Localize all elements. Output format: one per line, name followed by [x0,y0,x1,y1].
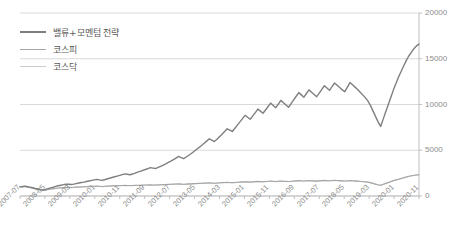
y-tick-label-0: 0 [425,191,429,200]
chart-legend: 밸류+모멘텀 전략코스피코스닥 [20,26,119,72]
y-tick-label-5000: 5000 [425,145,443,154]
legend-swatch-icon-1 [20,49,46,50]
legend-item-1[interactable]: 코스피 [20,43,119,55]
y-tick-label-15000: 15000 [425,54,447,63]
line-chart: 05000100001500020000 2007-072008-052009-… [0,0,476,250]
legend-swatch-icon-2 [20,66,46,67]
y-tick-label-10000: 10000 [425,100,447,109]
legend-label-2: 코스닥 [53,60,77,73]
legend-item-2[interactable]: 코스닥 [20,60,119,72]
legend-label-0: 밸류+모멘텀 전략 [53,26,119,39]
legend-label-1: 코스피 [53,43,77,56]
legend-swatch-icon-0 [20,31,46,33]
legend-item-0[interactable]: 밸류+모멘텀 전략 [20,26,119,38]
y-tick-label-20000: 20000 [425,8,447,17]
